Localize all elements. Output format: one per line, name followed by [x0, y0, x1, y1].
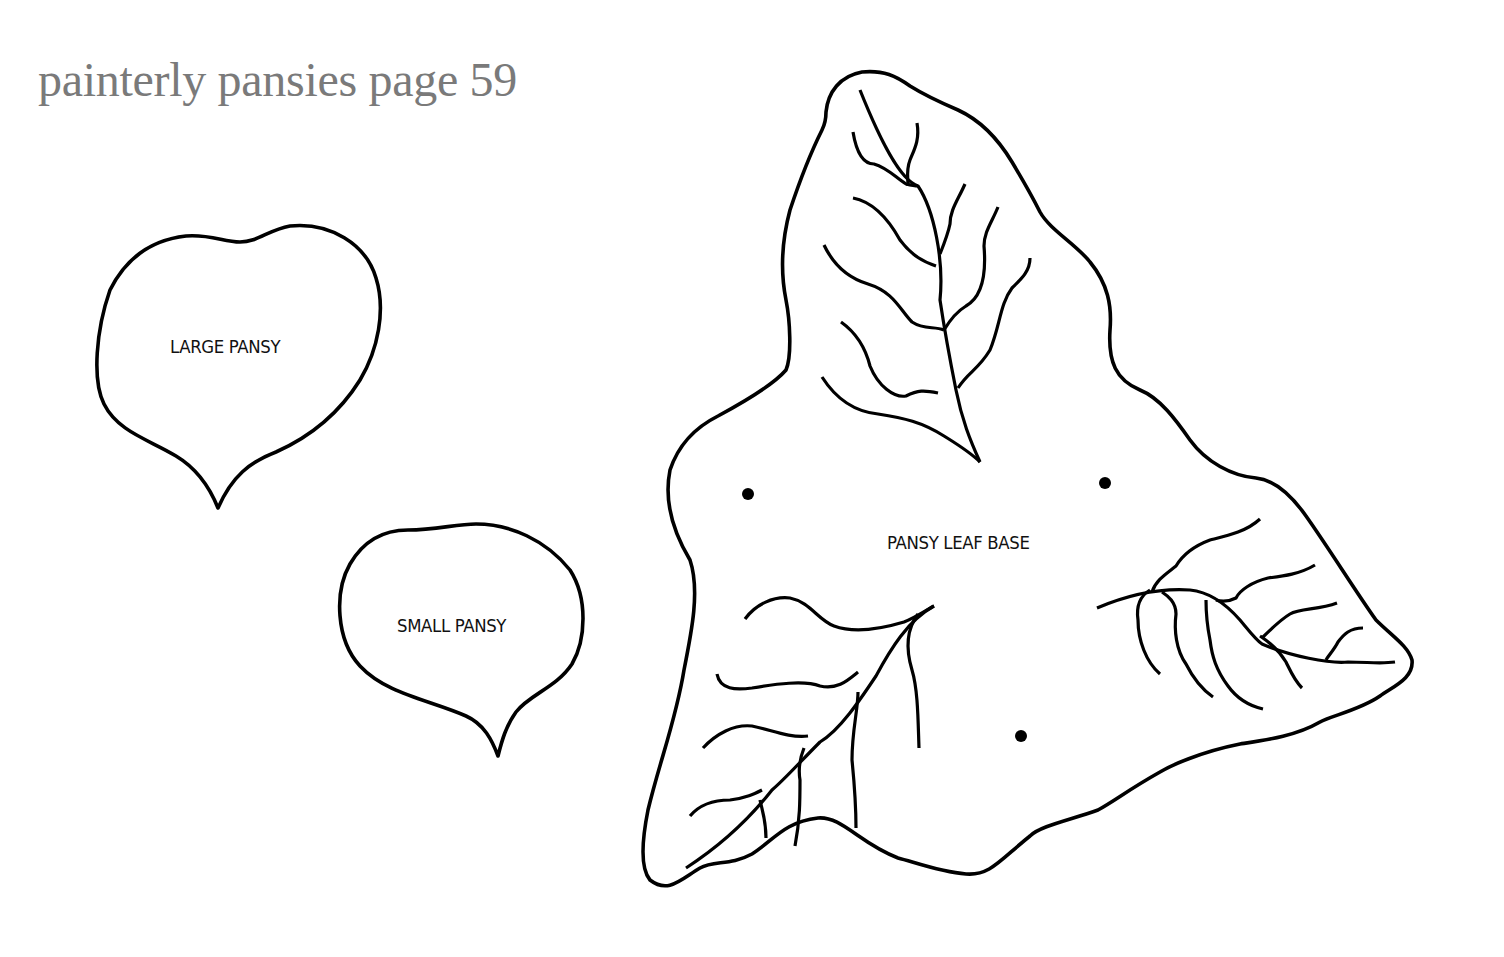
small-pansy-shape: [340, 524, 583, 756]
marker-dot: [1015, 730, 1027, 742]
large-pansy-shape: [97, 226, 380, 508]
lower-left-leaf-veins: [686, 598, 934, 868]
pansy-leaf-base-shape: [643, 72, 1412, 886]
right-leaf-veins: [1097, 519, 1395, 709]
pansy-leaf-base-label: PANSY LEAF BASE: [887, 532, 1029, 553]
small-pansy-label: SMALL PANSY: [397, 615, 506, 636]
marker-dot: [1099, 477, 1111, 489]
template-artwork: [0, 0, 1504, 957]
marker-dot: [742, 488, 754, 500]
large-pansy-label: LARGE PANSY: [170, 336, 280, 357]
